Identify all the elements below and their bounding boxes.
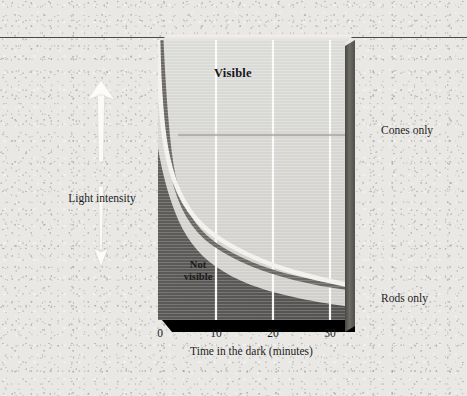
x-tick-10: 10: [201, 327, 231, 339]
x-axis-title: Time in the dark (minutes): [158, 345, 345, 357]
dark-adaptation-figure: Visible Not visible Cones only Rods only…: [0, 0, 467, 396]
x-tick-30: 30: [315, 327, 345, 339]
x-tick-0: 0: [145, 327, 175, 339]
x-axis-tick-labels: 0 10 20 30: [0, 0, 467, 396]
x-tick-20: 20: [258, 327, 288, 339]
